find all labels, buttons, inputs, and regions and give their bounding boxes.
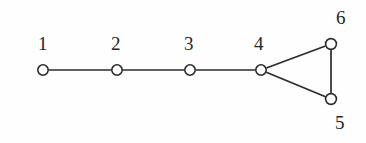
- node-label-4: 4: [254, 34, 264, 53]
- graph-node-6: [326, 39, 337, 50]
- graph-node-1: [38, 65, 48, 75]
- graph-node-4: [256, 65, 266, 75]
- graph-canvas: [0, 0, 366, 143]
- node-label-6: 6: [336, 8, 346, 27]
- node-label-3: 3: [184, 34, 194, 53]
- node-label-2: 2: [111, 34, 121, 53]
- graph-node-5: [326, 94, 337, 105]
- edge-4-6: [267, 46, 325, 67]
- graph-diagram: 123456: [0, 0, 366, 143]
- graph-node-3: [185, 65, 195, 75]
- edge-4-5: [267, 72, 325, 96]
- node-label-1: 1: [38, 34, 48, 53]
- graph-node-2: [112, 65, 122, 75]
- node-label-5: 5: [335, 113, 345, 132]
